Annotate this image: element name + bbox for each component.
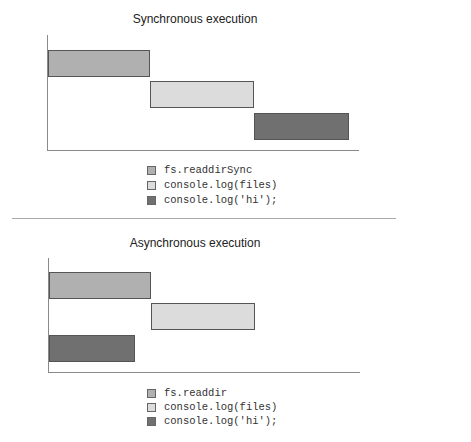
legend-swatch [147, 389, 156, 398]
legend-swatch [147, 166, 156, 175]
sync-bar-readdirsync [48, 50, 150, 77]
async-chart-title: Asynchronous execution [0, 236, 390, 250]
legend-swatch [147, 196, 156, 205]
async-bar-readdir [49, 272, 151, 299]
sync-chart-title: Synchronous execution [0, 12, 390, 26]
async-bar-console-log-hi [49, 335, 135, 362]
legend-label: console.log('hi'); [164, 194, 277, 206]
async-x-axis [48, 372, 360, 373]
legend-label: fs.readdir [164, 387, 227, 399]
legend-label: console.log(files) [164, 401, 277, 413]
legend-label: fs.readdirSync [164, 164, 252, 176]
section-divider [12, 218, 396, 219]
legend-label: console.log(files) [164, 179, 277, 191]
sync-bar-console-log-files [150, 81, 254, 108]
async-bar-console-log-files [151, 303, 255, 330]
legend-swatch [147, 417, 156, 426]
sync-bar-console-log-hi [254, 113, 349, 140]
sync-x-axis [47, 150, 359, 151]
legend-swatch [147, 403, 156, 412]
legend-label: console.log('hi'); [164, 415, 277, 427]
legend-swatch [147, 181, 156, 190]
